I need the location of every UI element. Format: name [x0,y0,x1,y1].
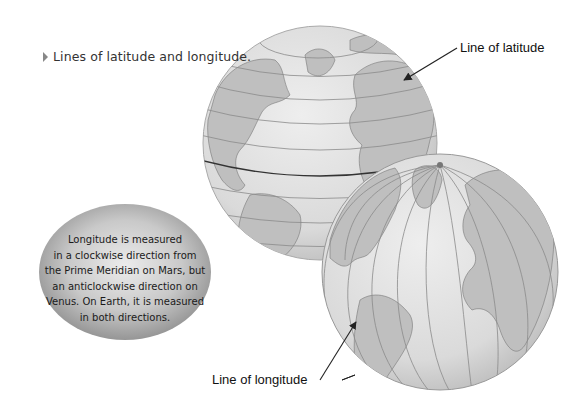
globe-longitude [322,154,558,392]
longitude-arrow-shaft [342,375,355,380]
caption-bullet-icon [43,52,48,62]
bubble-line: in a clockwise direction from [40,248,210,264]
latitude-arrow [404,48,457,80]
info-bubble-text: Longitude is measured in a clockwise dir… [40,232,210,326]
latitude-label: Line of latitude [460,40,545,55]
longitude-label: Line of longitude [212,372,307,387]
bubble-line: the Prime Meridian on Mars, but [40,263,210,279]
bubble-line: Longitude is measured [40,232,210,248]
bubble-line: an anticlockwise direction on [40,279,210,295]
bubble-line: in both directions. [40,310,210,326]
bubble-line: Venus. On Earth, it is measured [40,294,210,310]
figure-caption: Lines of latitude and longitude. [43,49,251,64]
caption-text: Lines of latitude and longitude. [53,49,251,64]
